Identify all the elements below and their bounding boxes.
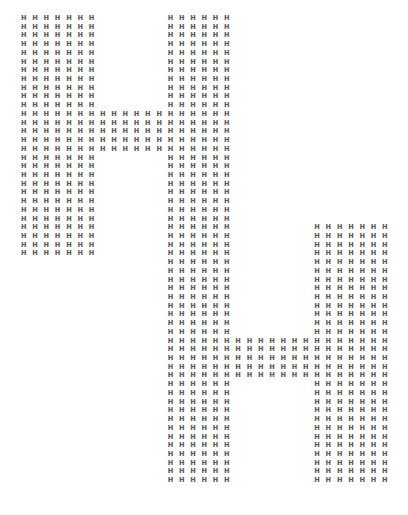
ascii-art-row: HHHHHH HHHHHHH <box>21 442 393 449</box>
ascii-art-row: HHHHHHHHHHHHHHHHHHH <box>21 111 393 118</box>
ascii-art-row: HHHHHH HHHHHHH <box>21 477 393 484</box>
ascii-art-row: HHHHHH HHHHHHH <box>21 268 393 275</box>
ascii-art-row: HHHHHH HHHHHHH <box>21 407 393 414</box>
ascii-art-block: HHHHHHH HHHHHHHHHHHHH HHHHHHHHHHHHH HHHH… <box>21 15 393 486</box>
ascii-art-row: HHHHHHHHHHHHHHHHHHH <box>21 146 393 153</box>
ascii-art-row: HHHHHH HHHHHHH <box>21 329 393 336</box>
ascii-art-row: HHHHHHH HHHHHH <box>21 67 393 74</box>
ascii-art-row: HHHHHHH HHHHHH <box>21 76 393 83</box>
ascii-art-row: HHHHHH HHHHHHH <box>21 425 393 432</box>
ascii-art-row: HHHHHHH HHHHHH <box>21 172 393 179</box>
ascii-art-row: HHHHHH HHHHHHH <box>21 460 393 467</box>
ascii-art-row: HHHHHH HHHHHHH <box>21 285 393 292</box>
ascii-art-row: HHHHHHH HHHHHH HHHHHHH <box>21 250 393 257</box>
ascii-art-row: HHHHHH HHHHHHH <box>21 451 393 458</box>
ascii-art-row: HHHHHHH HHHHHH <box>21 198 393 205</box>
ascii-art-row: HHHHHH HHHHHHH <box>21 259 393 266</box>
ascii-art-row: HHHHHHH HHHHHH <box>21 59 393 66</box>
ascii-art-row: HHHHHH HHHHHHH <box>21 468 393 475</box>
ascii-art-row: HHHHHH HHHHHHH <box>21 416 393 423</box>
ascii-art-row: HHHHHH HHHHHHH <box>21 434 393 441</box>
ascii-art-row: HHHHHHHHHHHHHHHHHHHH <box>21 338 393 345</box>
ascii-art-row: HHHHHH HHHHHHH <box>21 381 393 388</box>
ascii-art-row: HHHHHHH HHHHHH <box>21 163 393 170</box>
ascii-art-row: HHHHHH HHHHHHH <box>21 399 393 406</box>
ascii-art-row: HHHHHHH HHHHHH <box>21 93 393 100</box>
ascii-art-row: HHHHHHHHHHHHHHHHHHH <box>21 120 393 127</box>
ascii-art-row: HHHHHHHHHHHHHHHHHHHH <box>21 346 393 353</box>
ascii-art-row: HHHHHHH HHHHHH HHHHHHH <box>21 224 393 231</box>
ascii-art-row: HHHHHHH HHHHHH <box>21 207 393 214</box>
ascii-art-row: HHHHHHH HHHHHH <box>21 216 393 223</box>
ascii-art-row: HHHHHH HHHHHHH <box>21 320 393 327</box>
ascii-art-row: HHHHHHH HHHHHH <box>21 50 393 57</box>
ascii-art-row: HHHHHH HHHHHHH <box>21 390 393 397</box>
ascii-art-row: HHHHHHHHHHHHHHHHHHHH <box>21 372 393 379</box>
ascii-art-row: HHHHHHH HHHHHH <box>21 181 393 188</box>
ascii-art-row: HHHHHHH HHHHHH <box>21 15 393 22</box>
ascii-art-row: HHHHHH HHHHHHH <box>21 277 393 284</box>
ascii-art-row: HHHHHHH HHHHHH <box>21 32 393 39</box>
ascii-art-row: HHHHHHH HHHHHH <box>21 189 393 196</box>
ascii-art-row: HHHHHHHHHHHHHHHHHHHH <box>21 355 393 362</box>
ascii-art-row: HHHHHH HHHHHHH <box>21 311 393 318</box>
ascii-art-row: HHHHHHHHHHHHHHHHHHH <box>21 128 393 135</box>
ascii-art-row: HHHHHHH HHHHHH <box>21 41 393 48</box>
ascii-art-row: HHHHHHH HHHHHH <box>21 155 393 162</box>
ascii-art-row: HHHHHHH HHHHHH <box>21 102 393 109</box>
ascii-art-row: HHHHHHH HHHHHH HHHHHHH <box>21 233 393 240</box>
ascii-art-row: HHHHHH HHHHHHH <box>21 294 393 301</box>
ascii-art-row: HHHHHHHHHHHHHHHHHHH <box>21 137 393 144</box>
